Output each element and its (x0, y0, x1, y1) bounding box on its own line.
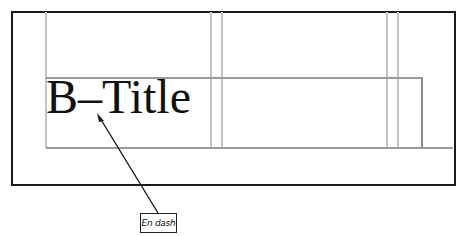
annotation-arrow (0, 0, 463, 236)
annotation-label: En dash (140, 213, 177, 233)
arrowhead-icon (97, 113, 104, 122)
